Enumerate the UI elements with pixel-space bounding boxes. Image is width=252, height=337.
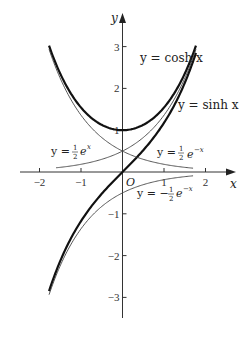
x-tick-label: −1 — [75, 176, 87, 188]
y-tick-label: −1 — [108, 208, 120, 220]
half-exp-label: y = 1 2 e x — [50, 143, 91, 161]
half-expneg-prefix: y = — [156, 146, 176, 159]
neg-half-expneg-sup: −x — [183, 185, 193, 193]
cosh-label: y = cosh x — [139, 51, 203, 65]
y-tick-label: −2 — [108, 250, 120, 262]
origin-label: O — [126, 176, 135, 189]
y-axis-arrow-icon — [119, 13, 126, 23]
half-expneg-label: y = 1 2 e −x — [156, 145, 204, 162]
x-axis-label: x — [230, 177, 237, 191]
x-tick-label: −2 — [34, 176, 46, 188]
neg-half-expneg-e: e — [176, 187, 183, 200]
x-axis-arrow-icon — [226, 169, 236, 176]
sinh-label: y = sinh x — [177, 98, 239, 112]
frac-den: 2 — [169, 195, 173, 203]
frac-num: 1 — [169, 186, 173, 194]
x-tick-label: 2 — [203, 176, 209, 188]
half-exp-prefix: y = — [50, 145, 70, 158]
sinh-label-text: y = sinh x — [177, 98, 239, 112]
y-tick-label: 2 — [114, 82, 120, 94]
half-expneg-e: e — [187, 148, 194, 161]
y-tick-label: −3 — [108, 291, 120, 303]
y-tick-label: 3 — [114, 41, 120, 53]
frac-num: 1 — [73, 144, 77, 152]
hyperbolic-functions-chart: −2−112−3−2−1123 x y O y = cosh x y = sin… — [0, 0, 252, 337]
neg-half-expneg-label: y = − 1 2 e −x — [136, 185, 193, 203]
frac-den: 2 — [179, 154, 183, 162]
neg-half-expneg-prefix: y = − — [136, 187, 169, 200]
cosh-label-text: y = cosh x — [139, 51, 203, 65]
frac-num: 1 — [179, 145, 183, 153]
frac-den: 2 — [73, 153, 77, 161]
half-expneg-sup: −x — [194, 146, 204, 154]
half-exp-sup: x — [87, 143, 91, 151]
half-exp-e: e — [80, 145, 87, 158]
y-axis-label: y — [110, 11, 118, 25]
